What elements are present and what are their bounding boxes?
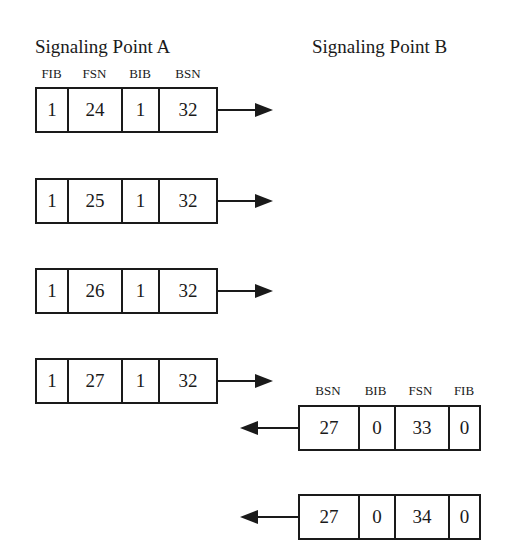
- cell-bib: 1: [123, 270, 160, 312]
- cell-fsn: 25: [69, 180, 123, 222]
- frame-a-1: 1 24 1 32: [35, 87, 218, 133]
- frame-b-2: 27 0 34 0: [298, 494, 481, 540]
- header-b-fib: FIB: [447, 383, 481, 399]
- cell-bsn: 32: [160, 89, 216, 131]
- title-signaling-point-b: Signaling Point B: [312, 36, 447, 58]
- cell-bib: 1: [123, 180, 160, 222]
- cell-bib: 1: [123, 89, 160, 131]
- cell-bsn: 27: [300, 407, 360, 449]
- cell-bsn: 27: [300, 496, 360, 538]
- title-signaling-point-a: Signaling Point A: [35, 36, 170, 58]
- cell-fsn: 34: [396, 496, 450, 538]
- cell-fsn: 26: [69, 270, 123, 312]
- cell-fib: 1: [37, 270, 69, 312]
- cell-bib: 1: [123, 360, 160, 402]
- frame-b-1: 27 0 33 0: [298, 405, 481, 451]
- arrow-right-icon: [217, 191, 277, 211]
- arrow-right-icon: [217, 100, 277, 120]
- frame-a-4: 1 27 1 32: [35, 358, 218, 404]
- cell-fib: 1: [37, 89, 69, 131]
- header-a-fsn: FSN: [67, 66, 122, 82]
- cell-bsn: 32: [160, 360, 216, 402]
- cell-fsn: 27: [69, 360, 123, 402]
- cell-fib: 0: [450, 407, 479, 449]
- cell-fsn: 33: [396, 407, 450, 449]
- header-b-fsn: FSN: [393, 383, 448, 399]
- header-b-bib: BIB: [357, 383, 394, 399]
- arrow-left-icon: [238, 418, 300, 438]
- cell-bib: 0: [360, 407, 396, 449]
- frame-a-2: 1 25 1 32: [35, 178, 218, 224]
- header-b-bsn: BSN: [298, 383, 358, 399]
- arrow-right-icon: [217, 371, 277, 391]
- arrow-right-icon: [217, 281, 277, 301]
- frame-a-3: 1 26 1 32: [35, 268, 218, 314]
- cell-bsn: 32: [160, 270, 216, 312]
- cell-bsn: 32: [160, 180, 216, 222]
- header-a-bsn: BSN: [158, 66, 218, 82]
- cell-fib: 1: [37, 180, 69, 222]
- cell-fsn: 24: [69, 89, 123, 131]
- arrow-left-icon: [238, 507, 300, 527]
- cell-fib: 1: [37, 360, 69, 402]
- header-a-fib: FIB: [35, 66, 68, 82]
- cell-bib: 0: [360, 496, 396, 538]
- cell-fib: 0: [450, 496, 479, 538]
- header-a-bib: BIB: [121, 66, 159, 82]
